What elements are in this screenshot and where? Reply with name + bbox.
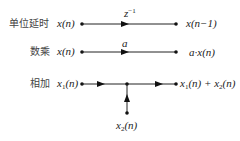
unit-delay-output: x(n−1) <box>185 17 217 30</box>
add-label: 相加 <box>30 77 50 89</box>
input2-node <box>125 111 129 115</box>
multiply-label: 数乘 <box>30 45 50 57</box>
unit-delay-label: 单位延时 <box>9 17 49 29</box>
add-input-2: x2(n) <box>115 119 138 133</box>
row-addition: 相加 x1(n) x1(n) + x2(n) x2(n) <box>30 77 236 133</box>
output-node <box>174 22 178 26</box>
multiply-input: x(n) <box>56 45 75 58</box>
gain-label: a <box>122 37 128 49</box>
output-node <box>174 82 178 86</box>
unit-delay-input: x(n) <box>56 17 75 30</box>
signal-flow-diagram: 单位延时 x(n) z−1 x(n−1) 数乘 x(n) a a·x(n) 相加… <box>0 0 240 141</box>
arrow-right-icon <box>121 49 129 55</box>
row-unit-delay: 单位延时 x(n) z−1 x(n−1) <box>9 7 217 30</box>
add-output: x1(n) + x2(n) <box>179 77 236 91</box>
arrow-right-icon <box>121 21 129 27</box>
row-scalar-multiply: 数乘 x(n) a a·x(n) <box>30 37 215 59</box>
add-input-1: x1(n) <box>56 77 79 91</box>
output-node <box>174 50 178 54</box>
arrow-up-icon <box>124 94 130 102</box>
arrow-right-icon <box>97 81 105 87</box>
delay-operator: z−1 <box>123 7 136 19</box>
multiply-output: a·x(n) <box>189 46 215 59</box>
arrow-right-icon <box>155 81 163 87</box>
